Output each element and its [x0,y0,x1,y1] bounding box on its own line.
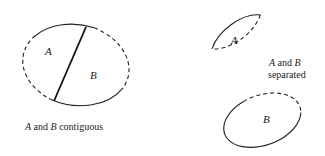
region-b-separated-solid [216,84,307,156]
region-a-boundary-solid [35,16,94,48]
region-b-boundary-solid [50,75,122,115]
separated-caption-line1: A and B [268,57,301,68]
separated-region-b-label: B [263,113,270,125]
separated-caption-line2: separated [268,69,306,80]
contiguous-caption: A and B contiguous [24,121,103,132]
region-b-separated-dashed [243,83,302,130]
region-a-label: A [44,45,52,57]
separated-region-a [207,7,264,57]
diagram-canvas: A B A and B contiguous A A and B separat… [0,0,325,156]
separated-region-a-label: A [230,34,238,46]
contiguous-figure [15,14,137,115]
shared-boundary-line [54,27,86,101]
region-b-label: B [90,69,97,81]
region-a-boundary-dashed [15,34,62,99]
